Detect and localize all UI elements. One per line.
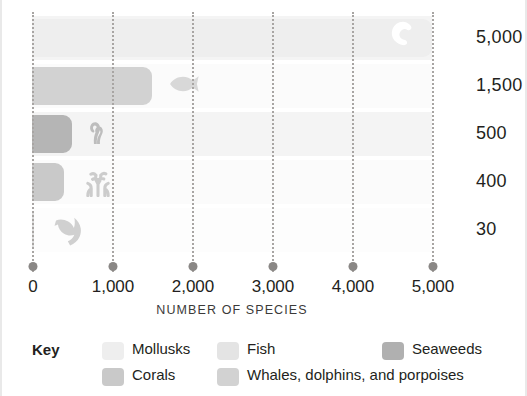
x-tick-label: 1,000 [92,277,135,297]
legend-swatch [382,342,404,360]
chart-legend: Key MollusksFishSeaweedsCoralsWhales, do… [2,335,527,395]
fish-icon [160,67,206,101]
legend-label: Seaweeds [412,340,482,357]
bar-value-label: 500 [476,123,507,144]
x-axis-tick-labels: 01,0002,0003,0004,0005,000 [2,277,527,299]
gridline [112,12,114,272]
legend-swatch [217,368,239,386]
legend-label: Mollusks [132,340,190,357]
gridline [352,12,354,272]
legend-swatch [102,368,124,386]
axis-tick-dot [189,262,198,271]
gridline [432,12,434,272]
axis-tick-dot [349,262,358,271]
legend-label: Corals [132,366,175,383]
bar-value-label: 1,500 [476,75,523,96]
gridline [192,12,194,272]
bar-value-label: 30 [476,219,497,240]
x-tick-label: 0 [28,277,37,297]
axis-tick-dot [429,262,438,271]
x-tick-label: 5,000 [412,277,455,297]
x-tick-label: 2,000 [172,277,215,297]
axis-tick-dot [29,262,38,271]
bar-value-label: 400 [476,171,507,192]
x-tick-label: 3,000 [252,277,295,297]
gridline [272,12,274,272]
chart-figure: 5,0001,50050040030 01,0002,0003,0004,000… [0,0,527,396]
x-tick-label: 4,000 [332,277,375,297]
bar-mollusks [32,19,432,57]
legend-swatch [102,342,124,360]
legend-label: Whales, dolphins, and porpoises [247,366,464,383]
bar-corals [32,163,64,201]
bar-value-label: 5,000 [476,27,523,48]
bar-seaweeds [32,115,72,153]
plot-area: 5,0001,50050040030 [32,12,432,264]
x-axis-title: NUMBER OF SPECIES [2,303,462,317]
dolphin-icon [48,209,96,247]
axis-tick-dot [269,262,278,271]
seaweed-icon [82,113,108,151]
legend-title: Key [32,341,60,358]
shell-icon [386,19,420,53]
axis-tick-dot [109,262,118,271]
gridline [32,12,34,272]
bar-fish [32,67,152,105]
legend-label: Fish [247,340,275,357]
legend-swatch [217,342,239,360]
